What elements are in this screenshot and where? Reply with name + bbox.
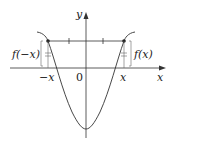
tick-label-neg-x: −x [39, 71, 55, 84]
x-axis-label: x [157, 71, 164, 84]
y-axis-label: y [75, 8, 83, 21]
origin-label: 0 [76, 71, 83, 84]
diagram-canvas: f(−x) f(x) −x 0 x x y [0, 0, 223, 148]
label-f-x: f(x) [133, 48, 153, 61]
x-axis-arrow-icon [159, 66, 166, 71]
even-function-diagram: f(−x) f(x) −x 0 x x y [0, 0, 223, 148]
bracket-left [41, 41, 43, 66]
bracket-right [129, 41, 131, 66]
label-f-neg-x: f(−x) [11, 48, 40, 61]
tick-label-pos-x: x [120, 71, 127, 84]
y-axis-arrow-icon [84, 12, 89, 19]
